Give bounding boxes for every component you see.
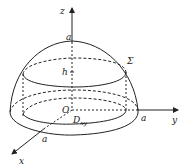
region-back-edge xyxy=(23,98,126,114)
diagram-canvas: z a h Σ O Dxy a y a x xyxy=(0,0,191,166)
y-a-label: a xyxy=(141,113,146,123)
z-axis-label: z xyxy=(59,6,65,16)
hemisphere-diagram: z a h Σ O Dxy a y a x xyxy=(0,0,191,166)
cut-front-edge xyxy=(23,72,126,87)
x-a-label: a xyxy=(42,134,47,144)
h-label: h xyxy=(62,67,68,77)
base-back-edge xyxy=(10,90,138,112)
x-axis-label: x xyxy=(19,156,24,166)
sigma-label: Σ xyxy=(126,56,134,66)
cut-back-edge xyxy=(23,58,126,74)
dome-outline xyxy=(10,41,138,112)
origin-label: O xyxy=(62,105,70,115)
region-label: Dxy xyxy=(72,115,88,127)
z-a-label: a xyxy=(66,32,71,42)
y-axis-label: y xyxy=(171,115,178,125)
